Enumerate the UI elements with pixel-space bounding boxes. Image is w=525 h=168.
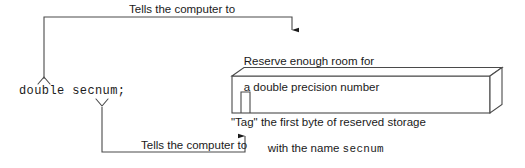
diagram-canvas: Tells the computer to double secnum; Res… bbox=[0, 0, 525, 168]
reserve-annotation-block: Reserve enough room for a double precisi… bbox=[231, 42, 379, 107]
bottom-annotation-label: Tells the computer to bbox=[141, 139, 247, 152]
reserve-annotation-line1: Reserve enough room for bbox=[244, 55, 374, 67]
code-declaration-text: double secnum; bbox=[19, 85, 125, 98]
bottom-caret-icon bbox=[96, 99, 108, 106]
memory-block-right-face bbox=[490, 68, 502, 114]
tag-annotation-identifier: secnum bbox=[343, 143, 384, 155]
tag-annotation-line2-prefix: with the name bbox=[268, 142, 343, 154]
reserve-annotation-line2: a double precision number bbox=[244, 81, 380, 93]
tag-annotation-line1: "Tag" the first byte of reserved storage bbox=[231, 116, 426, 129]
tag-annotation-line2: with the name secnum bbox=[255, 129, 384, 168]
top-annotation-label: Tells the computer to bbox=[129, 3, 235, 16]
